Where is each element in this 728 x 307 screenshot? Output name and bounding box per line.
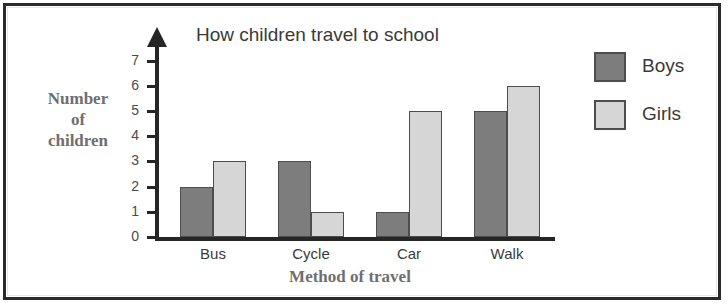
x-category-label-car: Car <box>359 245 459 262</box>
x-category-label-cycle: Cycle <box>261 245 361 262</box>
y-tick-label-0: 0 <box>115 229 139 243</box>
y-tick-7 <box>147 60 156 63</box>
bar-bus-girls <box>213 161 246 237</box>
y-tick-1 <box>147 211 156 214</box>
y-tick-label-5: 5 <box>115 103 139 117</box>
y-tick-3 <box>147 160 156 163</box>
legend-swatch-girls <box>594 100 626 130</box>
y-tick-label-6: 6 <box>115 78 139 92</box>
bar-cycle-boys <box>278 161 311 237</box>
y-tick-label-7: 7 <box>115 53 139 67</box>
x-axis-title: Method of travel <box>200 267 500 287</box>
y-tick-0 <box>147 236 156 239</box>
y-tick-2 <box>147 186 156 189</box>
bar-bus-boys <box>180 187 213 237</box>
legend-label-girls: Girls <box>642 103 681 125</box>
bar-car-boys <box>376 212 409 237</box>
legend-label-boys: Boys <box>642 55 684 77</box>
plot-area: 01234567 BusCycleCarWalk <box>0 0 728 307</box>
y-tick-label-2: 2 <box>115 179 139 193</box>
x-category-label-walk: Walk <box>457 245 557 262</box>
y-tick-6 <box>147 85 156 88</box>
bar-car-girls <box>409 111 442 237</box>
y-axis-arrow-icon <box>147 27 167 47</box>
x-axis-line <box>155 237 555 241</box>
y-tick-5 <box>147 110 156 113</box>
x-category-label-bus: Bus <box>163 245 263 262</box>
y-tick-label-3: 3 <box>115 153 139 167</box>
chart-screenshot: How children travel to school Number of … <box>0 0 728 307</box>
y-tick-label-4: 4 <box>115 128 139 142</box>
bar-cycle-girls <box>311 212 344 237</box>
legend-swatch-boys <box>594 52 626 82</box>
y-tick-4 <box>147 135 156 138</box>
bar-walk-girls <box>507 86 540 237</box>
bar-walk-boys <box>474 111 507 237</box>
y-tick-label-1: 1 <box>115 204 139 218</box>
